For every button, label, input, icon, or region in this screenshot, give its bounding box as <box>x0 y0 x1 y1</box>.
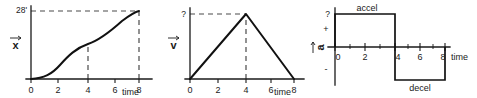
acceleration-xaxis-label: time <box>451 52 468 62</box>
acceleration-yaxis-label-group: a <box>311 42 326 53</box>
position-yaxis-label: x <box>12 39 19 51</box>
velocity-xtick-label-6: 6 <box>268 85 273 95</box>
velocity-chart-svg: ? 0 2 4 6 8 time v <box>158 0 310 98</box>
velocity-xtick-label-2: 2 <box>215 85 220 95</box>
acceleration-xtick-label-2: 2 <box>362 52 367 62</box>
kinematics-figure-row: 28' 0 2 4 6 8 time x <box>0 0 477 98</box>
position-vs-time-chart: 28' 0 2 4 6 8 time x <box>0 0 158 98</box>
velocity-ytick-label-peak: ? <box>181 9 186 19</box>
velocity-xaxis-label: time <box>274 87 291 97</box>
position-xtick-label-2: 2 <box>55 85 60 95</box>
position-xtick-label-4: 4 <box>85 85 90 95</box>
position-chart-svg: 28' 0 2 4 6 8 time x <box>0 0 158 98</box>
velocity-yaxis-label: v <box>170 39 177 51</box>
position-curve <box>31 11 139 79</box>
acceleration-ytick-label-minus: - <box>325 64 328 74</box>
acceleration-ytick-label-peak: ? <box>325 9 330 19</box>
velocity-vs-time-chart: ? 0 2 4 6 8 time v <box>158 0 310 98</box>
acceleration-yaxis-label: a <box>314 44 326 51</box>
acceleration-vs-time-chart: ? + - 0 2 4 6 8 time accel decel a <box>310 0 477 98</box>
acceleration-ytick-label-plus: + <box>323 24 328 34</box>
position-xtick-label-0: 0 <box>28 85 33 95</box>
acceleration-xtick-label-6: 6 <box>417 52 422 62</box>
acceleration-xtick-label-0: 0 <box>335 52 340 62</box>
position-yaxis-label-group: x <box>10 36 21 51</box>
velocity-xtick-label-8: 8 <box>291 85 296 95</box>
position-xaxis-label: time <box>122 87 139 97</box>
acceleration-xtick-label-4: 4 <box>395 52 400 62</box>
velocity-xtick-label-0: 0 <box>187 85 192 95</box>
velocity-xtick-label-4: 4 <box>243 85 248 95</box>
position-ytick-label-28: 28' <box>16 5 27 15</box>
acceleration-chart-svg: ? + - 0 2 4 6 8 time accel decel a <box>310 0 477 98</box>
acceleration-xtick-label-8: 8 <box>440 52 445 62</box>
decel-region-label: decel <box>409 83 431 93</box>
velocity-curve <box>190 14 294 79</box>
velocity-yaxis-label-group: v <box>168 36 179 51</box>
position-xtick-label-6: 6 <box>112 85 117 95</box>
accel-region-label: accel <box>356 3 377 13</box>
